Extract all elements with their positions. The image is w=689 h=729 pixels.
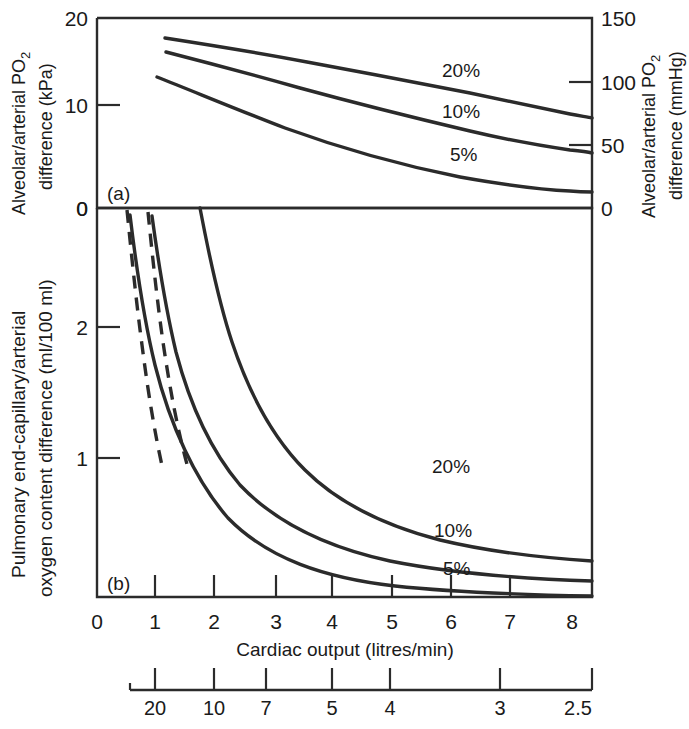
x-axis-primary: 0 1 2 3 4 5 6 7 8 Cardiac output (litres…: [91, 610, 578, 660]
panel-a-curve-label-10: 10%: [442, 101, 480, 122]
panel-b-curve-label-20: 20%: [432, 456, 470, 477]
secondary-ticklabel-10: 10: [203, 697, 225, 719]
panel-a-curve-label-20: 20%: [442, 60, 480, 81]
panel-b-frame: [97, 208, 592, 597]
panel-a-ylabel-right-sub: 2: [648, 55, 663, 62]
panel-b-ylabel-line1: Pulmonary end-capillary/arterial: [8, 311, 29, 578]
panel-a-mark: (a): [107, 183, 130, 204]
panel-a-ylabel-right-line2: difference (mmHg): [666, 51, 686, 200]
secondary-ticklabel-3: 3: [494, 697, 505, 719]
secondary-ticklabel-20: 20: [144, 697, 166, 719]
panel-a-ticklabel-right-150: 150: [601, 7, 636, 30]
panel-b-ticklabel-left-2: 2: [76, 316, 88, 339]
x-ticklabel-8: 8: [566, 610, 578, 633]
panel-b-ticklabel-left-1: 1: [76, 447, 88, 470]
panel-a-ticklabel-left-20: 20: [65, 7, 88, 30]
secondary-ticklabel-7: 7: [260, 697, 271, 719]
secondary-ticklabel-4: 4: [384, 697, 395, 719]
x-ticklabel-2: 2: [208, 610, 220, 633]
panel-a-ylabel-line2: difference (kPa): [36, 63, 56, 190]
x-ticklabel-3: 3: [270, 610, 282, 633]
panel-b-y-axis-label: Pulmonary end-capillary/arterial oxygen …: [8, 279, 56, 597]
secondary-ticklabel-2.5: 2.5: [564, 697, 592, 719]
secondary-axis: 20 10 7 5 4 3 2.5: [130, 668, 592, 719]
panel-b-curve-label-10: 10%: [434, 520, 472, 541]
svg-text:Alveolar/arterial PO2: Alveolar/arterial PO2: [639, 55, 663, 218]
panel-a-y-axis-label-left: Alveolar/arterial PO2 difference (kPa): [9, 52, 56, 215]
panel-b: Pulmonary end-capillary/arterial oxygen …: [8, 197, 592, 597]
svg-text:Alveolar/arterial PO2: Alveolar/arterial PO2: [9, 52, 33, 215]
panel-a-ticklabel-right-0: 0: [601, 197, 613, 220]
panel-b-curve-5: [130, 215, 592, 596]
panel-a-ylabel-right-line1: Alveolar/arterial PO: [639, 62, 659, 218]
panel-a: Alveolar/arterial PO2 difference (kPa) A…: [9, 7, 686, 220]
panel-b-ylabel-line2: oxygen content difference (ml/100 ml): [35, 279, 56, 597]
panel-b-ticklabel-left-0: 0: [76, 197, 88, 220]
panel-a-ticklabel-right-50: 50: [601, 134, 624, 157]
panel-a-ylabel-sub: 2: [18, 52, 33, 59]
x-axis-title: Cardiac output (litres/min): [236, 639, 454, 660]
panel-b-curve-label-5: 5%: [443, 558, 471, 579]
panel-a-ylabel-line1: Alveolar/arterial PO: [9, 59, 29, 215]
panel-a-ticklabel-left-10: 10: [65, 94, 88, 117]
x-ticklabel-0: 0: [91, 610, 103, 633]
figure-container: Alveolar/arterial PO2 difference (kPa) A…: [0, 0, 689, 729]
panel-b-mark: (b): [107, 573, 130, 594]
panel-a-frame: [97, 18, 592, 208]
panel-a-curve-label-5: 5%: [450, 144, 478, 165]
panel-a-curve-5: [157, 77, 592, 192]
panel-a-curve-10: [166, 52, 592, 153]
x-ticklabel-1: 1: [149, 610, 161, 633]
x-ticklabel-5: 5: [386, 610, 398, 633]
chart-svg: Alveolar/arterial PO2 difference (kPa) A…: [0, 0, 689, 729]
x-ticklabel-7: 7: [504, 610, 516, 633]
panel-a-ticklabel-right-100: 100: [601, 71, 636, 94]
x-ticklabel-6: 6: [445, 610, 457, 633]
panel-a-y-axis-label-right: Alveolar/arterial PO2 difference (mmHg): [639, 51, 686, 218]
x-ticklabel-4: 4: [326, 610, 338, 633]
panel-b-curve-10: [152, 216, 592, 581]
panel-b-curve-20: [200, 208, 592, 561]
secondary-ticklabel-5: 5: [326, 697, 337, 719]
